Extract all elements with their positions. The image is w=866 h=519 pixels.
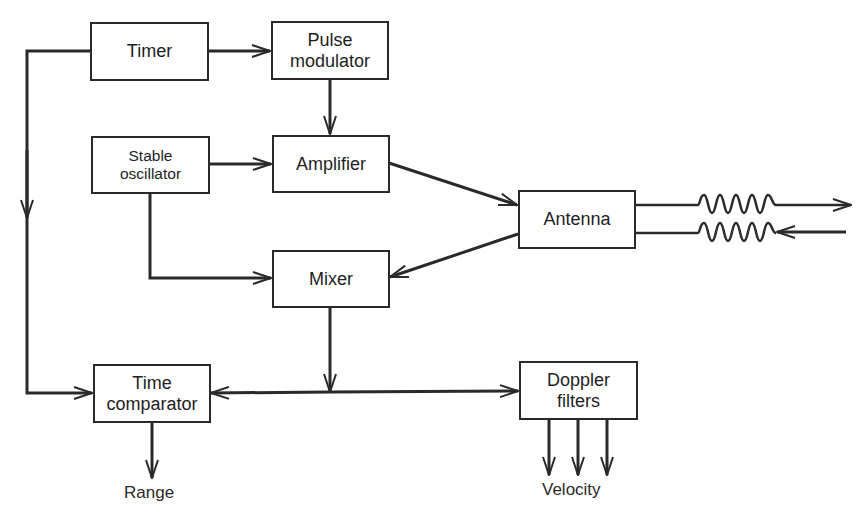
amplifier-label: Amplifier — [296, 154, 366, 175]
transmitted-wave-icon — [636, 195, 851, 213]
timer-label: Timer — [127, 41, 172, 62]
pulse-modulator-block: Pulse modulator — [271, 21, 389, 80]
wire-junction-to-time-comparator — [211, 392, 330, 393]
range-output-label: Range — [124, 483, 174, 503]
stable-oscillator-label-line2: oscillator — [120, 165, 181, 183]
stable-oscillator-label-line1: Stable — [129, 147, 173, 165]
wire-amplifier-to-antenna — [389, 163, 517, 205]
doppler-filters-block: Doppler filters — [519, 361, 638, 420]
antenna-block: Antenna — [518, 190, 636, 249]
mixer-block: Mixer — [272, 250, 390, 308]
pulse-modulator-label-line2: modulator — [290, 51, 370, 72]
wire-timer-to-time-comparator — [27, 51, 92, 393]
stable-oscillator-block: Stable oscillator — [91, 136, 210, 194]
pulse-modulator-label-line1: Pulse — [307, 30, 352, 51]
amplifier-block: Amplifier — [272, 135, 390, 193]
time-comparator-block: Time comparator — [93, 364, 211, 423]
timer-block: Timer — [90, 22, 209, 81]
wire-junction-to-doppler-filters — [330, 391, 518, 392]
doppler-filters-label-line1: Doppler — [547, 370, 610, 391]
time-comparator-label-line2: comparator — [106, 394, 197, 415]
mixer-label: Mixer — [309, 269, 353, 290]
time-comparator-label-line1: Time — [132, 373, 171, 394]
wire-antenna-to-mixer — [390, 234, 518, 277]
received-wave-icon — [636, 223, 776, 241]
wire-oscillator-to-mixer — [150, 193, 271, 278]
doppler-filters-label-line2: filters — [557, 391, 600, 412]
antenna-label: Antenna — [543, 209, 610, 230]
velocity-output-label: Velocity — [542, 480, 601, 500]
